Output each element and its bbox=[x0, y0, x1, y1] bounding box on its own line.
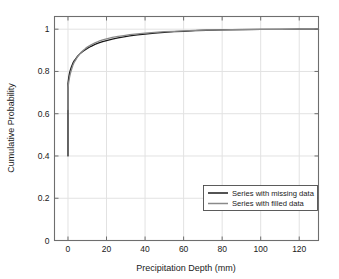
y-tick-label: 0 bbox=[45, 236, 50, 246]
y-tick-label: 0.4 bbox=[38, 151, 50, 161]
x-tick-label: 40 bbox=[140, 244, 150, 254]
x-axis-title: Precipitation Depth (mm) bbox=[136, 263, 236, 273]
y-tick-label: 0.2 bbox=[38, 193, 50, 203]
legend-label-missing: Series with missing data bbox=[232, 189, 315, 198]
x-tick-label: 20 bbox=[102, 244, 112, 254]
chart-background bbox=[0, 0, 339, 279]
cdf-line-chart: 020406080100120 00.20.40.60.81 Precipita… bbox=[0, 0, 339, 279]
x-tick-label: 100 bbox=[254, 244, 268, 254]
legend-label-filled: Series with filled data bbox=[232, 199, 305, 208]
y-tick-label: 0.6 bbox=[38, 109, 50, 119]
x-tick-label: 60 bbox=[179, 244, 189, 254]
x-tick-label: 80 bbox=[217, 244, 227, 254]
y-tick-label: 1 bbox=[45, 24, 50, 34]
x-tick-label: 0 bbox=[66, 244, 71, 254]
chart-legend[interactable]: Series with missing data Series with fil… bbox=[204, 186, 318, 211]
figure-canvas: 020406080100120 00.20.40.60.81 Precipita… bbox=[0, 0, 339, 279]
x-tick-label: 120 bbox=[292, 244, 306, 254]
y-tick-label: 0.8 bbox=[38, 66, 50, 76]
y-axis-title: Cumulative Probability bbox=[6, 83, 16, 173]
